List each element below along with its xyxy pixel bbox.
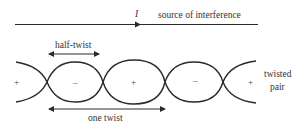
source-label: source of interference [158, 11, 241, 21]
interference-line [15, 22, 258, 28]
one-twist-label: one twist [88, 114, 123, 124]
sign-minus-2: – [193, 76, 198, 85]
twisted-pair-diagram: I source of interference half-twist one … [0, 0, 306, 127]
pair-label-line2: pair [270, 83, 285, 93]
sign-plus-1: + [14, 78, 19, 87]
current-arrow-icon [135, 22, 141, 28]
sign-plus-2: + [131, 78, 136, 87]
diagram-graphics [0, 0, 306, 127]
sign-minus-1: – [73, 78, 78, 87]
half-twist-label: half-twist [55, 41, 91, 51]
pair-label-line1: twisted [264, 70, 291, 80]
current-symbol: I [135, 10, 138, 20]
sign-plus-3: + [248, 78, 253, 87]
